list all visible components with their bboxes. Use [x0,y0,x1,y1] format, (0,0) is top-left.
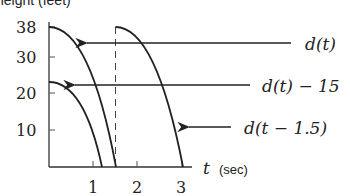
x-ticks [93,161,182,167]
x-tick-2: 2 [132,178,142,196]
x-tick-1: 1 [88,178,98,196]
y-ticks [49,27,55,130]
label-d-t: d(t) [305,34,336,54]
x-tick-3: 3 [176,178,186,196]
y-axis-label: height (feet) [0,0,71,8]
x-axis-label: t (sec) [203,158,248,178]
y-tick-20: 20 [16,84,36,103]
curve-d-t [49,27,116,167]
label-d-t-minus-1.5: d(t − 1.5) [244,118,327,138]
label-d-t-minus-15: d(t) − 15 [262,76,340,96]
curve-d-t-minus-1.5 [116,27,184,167]
y-tick-10: 10 [16,121,36,140]
y-tick-38: 38 [16,18,36,37]
curve-d-t-minus-15 [49,82,102,167]
chart: height (feet) 38 30 20 10 1 2 3 t (sec) … [0,0,350,196]
y-tick-30: 30 [16,48,36,67]
